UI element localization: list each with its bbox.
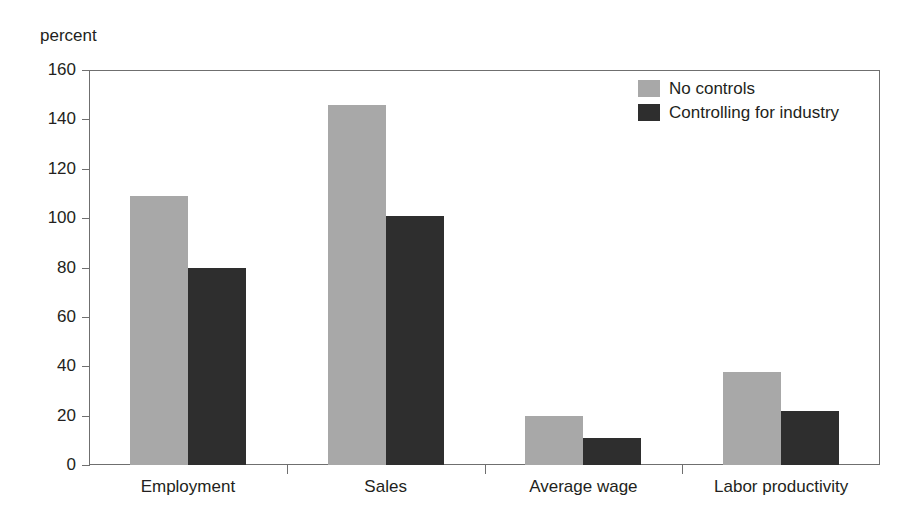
legend-item: Controlling for industry	[638, 102, 839, 122]
x-axis-group-tick	[485, 465, 486, 474]
y-axis-tick-label: 100	[24, 208, 76, 228]
legend-item: No controls	[638, 78, 839, 98]
light-gray-swatch	[638, 80, 660, 97]
y-axis-tick-label: 20	[24, 406, 76, 426]
bars-layer	[89, 70, 880, 465]
bar-no-controls	[130, 196, 188, 465]
bar-controlling-for-industry	[781, 411, 839, 465]
legend: No controlsControlling for industry	[638, 78, 839, 126]
y-axis-tick-label: 140	[24, 109, 76, 129]
dark-gray-swatch	[638, 104, 660, 121]
y-axis-tick	[82, 465, 90, 466]
legend-item-label: No controls	[669, 80, 755, 97]
x-axis-group-tick	[287, 465, 288, 474]
x-axis-group-tick	[682, 465, 683, 474]
bar-controlling-for-industry	[386, 216, 444, 465]
y-axis-tick-label: 80	[24, 258, 76, 278]
y-axis-tick-label: 0	[24, 455, 76, 475]
y-axis-tick-label: 120	[24, 159, 76, 179]
legend-item-label: Controlling for industry	[669, 104, 839, 121]
bar-no-controls	[723, 372, 781, 465]
y-axis-tick-label: 160	[24, 60, 76, 80]
bar-controlling-for-industry	[188, 268, 246, 466]
y-axis-unit-label: percent	[40, 26, 97, 46]
y-axis-tick-label: 40	[24, 356, 76, 376]
x-axis-category-label: Labor productivity	[714, 477, 848, 497]
x-axis-category-label: Employment	[141, 477, 235, 497]
bar-no-controls	[525, 416, 583, 465]
x-axis-category-label: Average wage	[529, 477, 637, 497]
bar-chart: percent 160140120100806040200 Employment…	[0, 0, 923, 531]
bar-controlling-for-industry	[583, 438, 641, 465]
bar-no-controls	[328, 105, 386, 465]
x-axis-category-label: Sales	[364, 477, 407, 497]
y-axis-tick-label: 60	[24, 307, 76, 327]
